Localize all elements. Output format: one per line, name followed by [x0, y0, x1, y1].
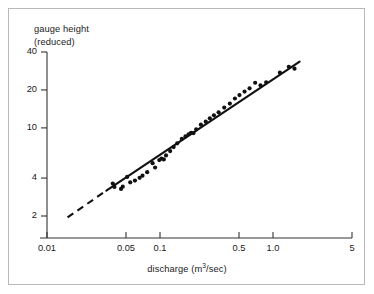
- data-point: [264, 80, 268, 84]
- data-point: [228, 101, 232, 105]
- data-point: [175, 141, 179, 145]
- data-point: [151, 161, 155, 165]
- y-tick-label: 4: [0, 172, 37, 182]
- fit-line-solid: [106, 62, 299, 191]
- data-point: [237, 93, 241, 97]
- y-tick-label: 20: [0, 84, 37, 94]
- data-point: [242, 90, 246, 94]
- x-axis-ticks: [47, 232, 352, 238]
- data-point: [287, 65, 291, 69]
- data-point: [194, 127, 198, 131]
- data-point: [162, 157, 166, 161]
- data-point: [172, 145, 176, 149]
- data-point: [128, 180, 132, 184]
- data-point: [112, 185, 116, 189]
- data-point: [222, 105, 226, 109]
- x-tick-label: 5: [322, 243, 374, 253]
- data-point: [164, 153, 168, 157]
- data-point: [247, 86, 251, 90]
- data-point: [208, 116, 212, 120]
- data-point: [121, 185, 125, 189]
- data-point: [292, 67, 296, 71]
- x-tick-label: 1.0: [243, 243, 303, 253]
- data-point: [199, 123, 203, 127]
- data-point: [140, 174, 144, 178]
- data-point: [153, 165, 157, 169]
- data-point: [133, 178, 137, 182]
- data-point: [145, 170, 149, 174]
- figure-canvas: gauge height (reduced) discharge (m3/sec…: [0, 0, 374, 294]
- y-axis-ticks: [41, 52, 47, 216]
- fit-line-dashed-extension: [68, 191, 107, 218]
- axes-lines: [40, 52, 352, 238]
- data-point: [212, 113, 216, 117]
- data-point: [180, 137, 184, 141]
- data-point: [233, 96, 237, 100]
- data-point: [278, 71, 282, 75]
- y-tick-label: 40: [0, 46, 37, 56]
- x-tick-label: 0.01: [17, 243, 77, 253]
- y-tick-label: 2: [0, 210, 37, 220]
- data-point: [191, 131, 195, 135]
- data-point: [168, 149, 172, 153]
- x-tick-label: 0.1: [130, 243, 190, 253]
- data-point-group: [111, 65, 297, 191]
- data-point: [204, 120, 208, 124]
- y-tick-label: 10: [0, 122, 37, 132]
- data-point: [258, 83, 262, 87]
- data-point: [253, 81, 257, 85]
- data-point: [125, 175, 129, 179]
- data-point: [217, 110, 221, 114]
